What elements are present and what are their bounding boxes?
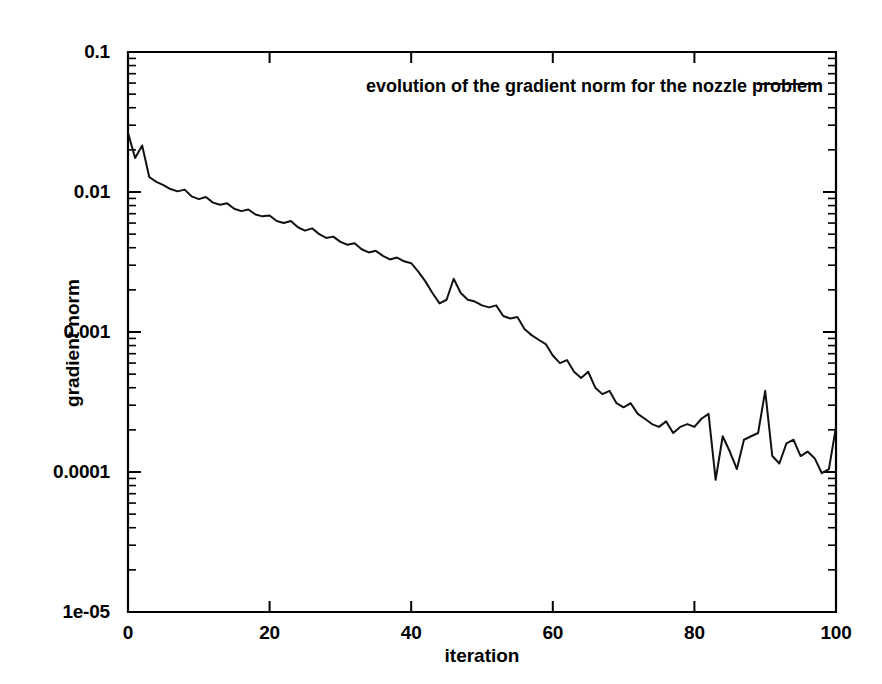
y-tick-label: 0.1 <box>0 41 110 63</box>
y-tick-label: 1e-05 <box>0 601 110 623</box>
y-tick-label: 0.001 <box>0 321 110 343</box>
plot-canvas <box>0 0 882 684</box>
series-line-gradient-norm <box>128 133 836 480</box>
x-axis-ticks <box>128 52 836 612</box>
axis-frame <box>128 52 836 612</box>
data-series-group <box>128 133 836 480</box>
y-tick-label: 0.01 <box>0 181 110 203</box>
x-tick-label: 100 <box>820 622 851 644</box>
x-tick-label: 80 <box>684 622 705 644</box>
x-axis-label: iteration <box>445 645 520 667</box>
legend-label: evolution of the gradient norm for the n… <box>366 76 823 97</box>
x-tick-label: 60 <box>542 622 563 644</box>
y-axis-label: gradient norm <box>62 243 84 443</box>
x-tick-label: 20 <box>259 622 280 644</box>
y-axis-ticks <box>128 52 836 612</box>
chart-figure: evolution of the gradient norm for the n… <box>0 0 882 684</box>
x-tick-label: 40 <box>401 622 422 644</box>
y-tick-label: 0.0001 <box>0 461 110 483</box>
x-tick-label: 0 <box>123 622 133 644</box>
